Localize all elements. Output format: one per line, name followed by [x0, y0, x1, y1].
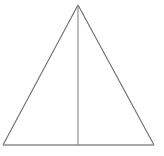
triangle-left-side	[3, 5, 78, 145]
figure-canvas	[0, 0, 164, 156]
triangle-diagram	[0, 0, 164, 156]
triangle-right-side	[78, 5, 154, 145]
